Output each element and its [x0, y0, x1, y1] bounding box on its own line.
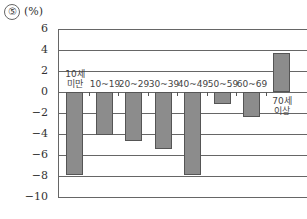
y-tick-label: −10 [8, 190, 48, 203]
y-tick-label: 2 [8, 64, 48, 77]
chart-title: ⑤(%) [4, 4, 43, 20]
y-tick-label: −8 [8, 169, 48, 182]
unit-label: (%) [24, 5, 43, 18]
x-tick [236, 92, 237, 96]
gridline [58, 197, 307, 198]
bar [66, 92, 83, 175]
category-label: 10세미만 [58, 69, 92, 89]
bar [273, 53, 290, 92]
gridline [58, 29, 307, 30]
category-label: 40~49 [176, 79, 210, 89]
category-label: 60~69 [235, 79, 269, 89]
y-tick-label: 0 [8, 85, 48, 98]
gridline [58, 155, 307, 156]
y-tick-label: −4 [8, 127, 48, 140]
x-tick [177, 92, 178, 96]
category-label: 70세이상 [265, 96, 299, 116]
y-tick-label: 4 [8, 43, 48, 56]
x-tick [89, 92, 90, 96]
y-tick-label: −6 [8, 148, 48, 161]
y-axis [58, 29, 59, 198]
bar [214, 92, 231, 104]
gridline [58, 71, 307, 72]
gridline [58, 176, 307, 177]
bar [96, 92, 113, 135]
x-tick [118, 92, 119, 96]
gridline [58, 50, 307, 51]
y-tick-label: −2 [8, 106, 48, 119]
bar [125, 92, 142, 141]
bar [155, 92, 172, 149]
title-number: ⑤ [4, 4, 20, 20]
x-tick [148, 92, 149, 96]
bar [243, 92, 260, 117]
x-tick [266, 92, 267, 96]
x-tick [207, 92, 208, 96]
y-tick-label: 6 [8, 22, 48, 35]
bar [184, 92, 201, 175]
category-label: 20~29 [117, 79, 151, 89]
